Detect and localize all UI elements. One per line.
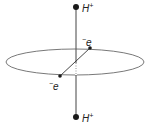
top-nucleus-label: H+: [82, 2, 93, 14]
lower-electron-dot: [58, 74, 62, 78]
bottom-nucleus-label: H+: [82, 112, 93, 124]
hydrogen-molecule-diagram: H+ H+ −e −e: [0, 0, 148, 138]
top-nucleus-dot: [73, 4, 79, 10]
diagram-canvas: [0, 0, 148, 138]
bottom-nucleus-dot: [73, 114, 79, 120]
upper-electron-label: −e: [82, 36, 92, 48]
lower-electron-label: −e: [49, 80, 59, 92]
